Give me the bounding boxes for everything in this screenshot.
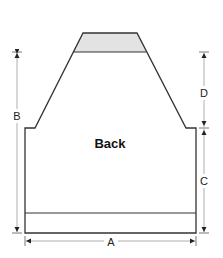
neck-shaded-area xyxy=(73,33,146,52)
dimension-b-label: B xyxy=(13,110,20,122)
dimension-c-label: C xyxy=(200,175,208,187)
dimension-b xyxy=(11,52,23,233)
schematic-diagram: B D C A Back xyxy=(0,0,223,258)
dimension-d-label: D xyxy=(200,87,208,99)
piece-title: Back xyxy=(94,136,126,151)
back-piece-outline xyxy=(25,33,196,233)
dimension-a-label: A xyxy=(107,236,115,248)
